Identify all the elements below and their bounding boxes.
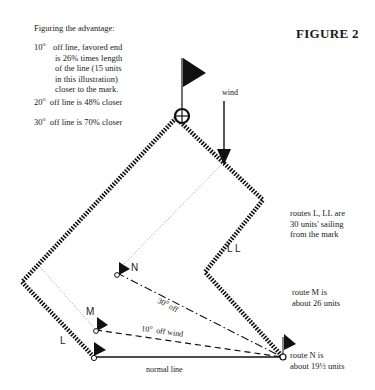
wind-arrow-icon [217, 101, 231, 165]
line-30-off [117, 273, 282, 357]
advantage-heading: Figuring the advantage: [34, 23, 115, 33]
pin-flag-icon [91, 342, 106, 361]
note-route-n: route N is about 19½ units [290, 350, 345, 371]
dotted-line-n [120, 162, 224, 268]
normal-line-label: normal line [146, 365, 183, 375]
route-ll-label: L L [227, 244, 241, 254]
wind-label: wind [222, 88, 238, 98]
figure-title: FIGURE 2 [296, 26, 359, 42]
advantage-10-text: off line, favored end is 26% times lengt… [53, 42, 122, 95]
note-route-m: route M is about 26 units [292, 287, 340, 308]
point-n-label: N [131, 263, 138, 273]
advantage-10-degrees: 10o [34, 42, 46, 52]
line-10-off-wind [96, 330, 282, 357]
route-l-label: L [60, 336, 66, 346]
advantage-20: 20o off line is 48% closer [34, 97, 122, 107]
route-ll-path [176, 118, 282, 356]
dotted-line-m [40, 267, 95, 329]
advantage-30: 30o off line is 70% closer [34, 117, 122, 127]
note-routes-l-ll: routes L, LL are 30 units' sailing from … [290, 208, 345, 240]
point-m-label: M [86, 307, 94, 317]
windward-mark-icon [175, 58, 206, 123]
